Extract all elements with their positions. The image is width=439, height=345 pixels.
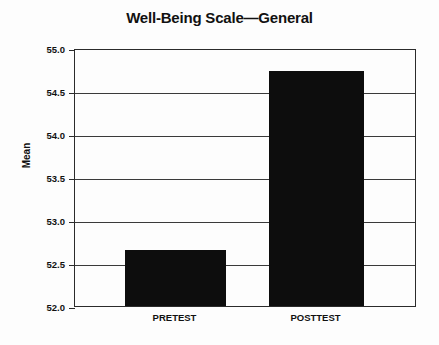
- chart-title: Well-Being Scale—General: [0, 9, 439, 26]
- y-axis-tick-mark: [69, 222, 75, 223]
- gridline: [75, 136, 415, 137]
- y-axis-tick-label: 52.5: [19, 259, 65, 270]
- y-axis-tick-label: 54.0: [19, 130, 65, 141]
- x-axis-label-posttest: POSTTEST: [268, 312, 363, 323]
- y-axis-tick-mark: [69, 93, 75, 94]
- chart-figure: Well-Being Scale—General Mean 55.054.554…: [0, 0, 439, 345]
- y-axis-tick-mark: [69, 265, 75, 266]
- y-axis-tick-mark: [69, 136, 75, 137]
- y-axis-tick-mark: [69, 179, 75, 180]
- bar-posttest: [269, 71, 364, 306]
- gridline: [75, 179, 415, 180]
- bar-pretest: [125, 250, 226, 306]
- y-axis-tick-label: 53.0: [19, 216, 65, 227]
- y-axis-tick-label: 53.5: [19, 173, 65, 184]
- x-axis-label-pretest: PRETEST: [124, 312, 225, 323]
- gridline: [75, 222, 415, 223]
- y-axis-tick-mark: [69, 50, 75, 51]
- gridline: [75, 93, 415, 94]
- y-axis-tick-label: 52.0: [19, 302, 65, 313]
- y-axis-tick-mark: [69, 308, 75, 309]
- plot-area: 55.054.554.053.553.052.552.0: [74, 49, 416, 307]
- y-axis-tick-label: 54.5: [19, 87, 65, 98]
- y-axis-tick-label: 55.0: [19, 44, 65, 55]
